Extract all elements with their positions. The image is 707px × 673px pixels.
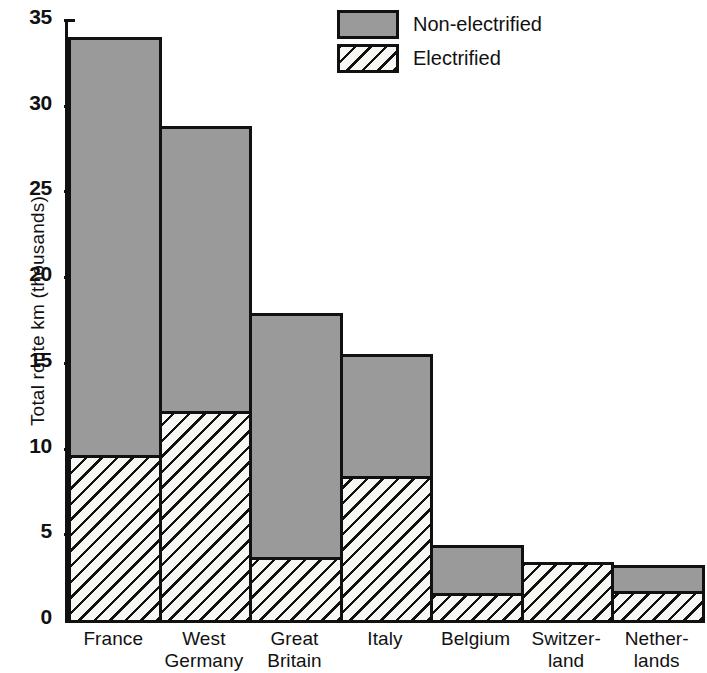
bar-segment-electrified [430,593,524,623]
bar-segment-electrified [159,411,253,623]
y-axis-tick-label: 10 [12,434,52,458]
bar-segment-electrified [249,557,343,623]
bar-segment-non-electrified [249,313,343,559]
bar-segment-non-electrified [611,565,705,594]
y-axis-tick-label: 15 [12,348,52,372]
x-axis-category-label-line1: Belgium [441,628,510,649]
x-axis-category-label-line1: Nether- [625,628,689,649]
y-axis-tick-label: 0 [12,605,52,629]
bar-segment-electrified [340,476,434,623]
x-axis-category-label-line1: West [182,628,225,649]
legend-item-electrified: Electrified [337,44,501,73]
x-axis-category-label-line2: lands [597,650,707,672]
y-axis-tick-label: 5 [12,519,52,543]
x-axis-category-label-line2: Britain [235,650,354,672]
bar-segment-non-electrified [159,126,253,414]
x-axis-category-label-line1: Italy [367,628,402,649]
legend-label-electrified: Electrified [413,47,501,70]
y-axis-tick-label: 30 [12,91,52,115]
x-axis-category-label-line1: Great [270,628,318,649]
y-axis-tick-label: 35 [12,5,52,29]
bar-segment-electrified [521,562,615,623]
bar-segment-electrified [68,455,162,623]
bar-segment-non-electrified [68,37,162,458]
y-axis-tick-label: 25 [12,176,52,200]
x-axis-category-label-line1: Switzer- [531,628,600,649]
bar-segment-electrified [611,591,705,623]
bar-segment-non-electrified [430,545,524,596]
legend-swatch-non-electrified [337,10,399,39]
legend-item-non-electrified: Non-electrified [337,10,542,39]
legend-label-non-electrified: Non-electrified [413,13,542,36]
y-axis-tick-label: 20 [12,262,52,286]
bar-segment-non-electrified [340,354,434,479]
x-axis-category-label: Nether-lands [597,628,707,673]
x-axis-category-label-line1: France [83,628,143,649]
legend-swatch-electrified [337,44,399,73]
